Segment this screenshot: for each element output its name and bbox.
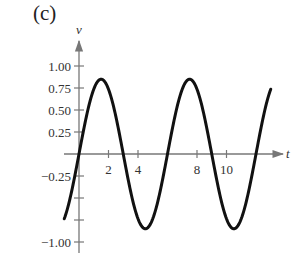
y-tick-label: 0.25 bbox=[48, 125, 71, 140]
x-tick-label: 8 bbox=[194, 162, 201, 177]
x-tick-label: 4 bbox=[135, 162, 142, 177]
y-tick-label: −0.25 bbox=[41, 169, 71, 184]
x-tick-label: 2 bbox=[105, 162, 112, 177]
x-tick-label: 10 bbox=[220, 162, 233, 177]
x-axis-label: t bbox=[286, 146, 290, 161]
y-tick-label: −1.00 bbox=[41, 235, 71, 250]
y-tick-label: 0.50 bbox=[48, 103, 71, 118]
y-tick-label: 0.75 bbox=[48, 81, 71, 96]
y-tick-label: 1.00 bbox=[48, 59, 71, 74]
sine-chart: t v 24810 1.000.750.500.25−0.25−1.00 bbox=[0, 0, 293, 267]
y-axis-label: v bbox=[76, 22, 82, 37]
axes: t v bbox=[64, 22, 290, 253]
